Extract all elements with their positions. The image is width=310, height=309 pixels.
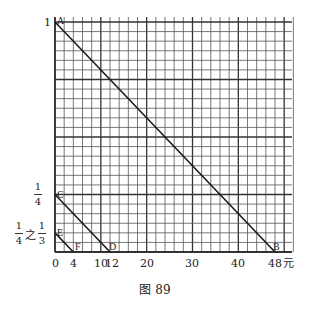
frac-den: 4: [16, 236, 22, 246]
point-label-e: E: [57, 227, 63, 238]
x-tick-20: 20: [140, 258, 154, 269]
frac-num: 1: [39, 221, 45, 231]
y-tick-quarter: 1 4: [34, 182, 42, 207]
frac-num: 1: [16, 221, 22, 231]
x-axis-unit: 元: [283, 258, 294, 269]
x-tick-30: 30: [185, 258, 199, 269]
frac-bar: [38, 233, 46, 234]
frac-den: 4: [35, 197, 41, 207]
frac-num: 1: [35, 182, 41, 192]
figure-caption: 图 89: [0, 280, 310, 297]
chart-canvas: [0, 0, 310, 309]
frac-bar: [34, 194, 42, 195]
x-tick-4: 4: [70, 258, 77, 269]
frac-den: 3: [39, 236, 45, 246]
x-tick-40: 40: [231, 258, 245, 269]
frac-b: 1 3: [38, 221, 46, 246]
point-label-f: F: [75, 241, 81, 252]
point-label-c: C: [57, 189, 64, 200]
y-tick-third-of-quarter: 1 4 之 1 3: [15, 221, 46, 246]
x-tick-0: 0: [52, 258, 59, 269]
of-text: 之: [25, 226, 36, 242]
frac-bar: [15, 233, 23, 234]
frac-a: 1 4: [15, 221, 23, 246]
y-tick-1: 1: [44, 17, 51, 28]
point-label-b: B: [273, 241, 280, 252]
point-label-a: A: [57, 15, 64, 26]
x-tick-12: 12: [105, 258, 119, 269]
grid-lines: [55, 17, 293, 252]
x-tick-48: 48: [268, 258, 282, 269]
point-label-d: D: [109, 241, 116, 252]
